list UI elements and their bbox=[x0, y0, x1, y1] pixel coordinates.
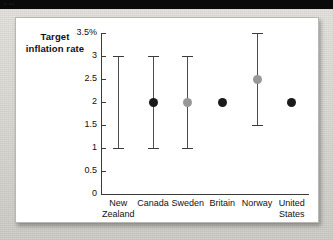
top-band-faint-marks: ▫ ▫▫ bbox=[4, 1, 15, 7]
x-axis-label-line1: Norway bbox=[238, 198, 277, 209]
x-axis-label-line2: Zealand bbox=[99, 209, 138, 220]
y-tick-label-text: 0 bbox=[92, 188, 97, 198]
y-tick-mark bbox=[101, 102, 106, 103]
plot-area: Target inflation rate 3.5%32.521.510.50 … bbox=[16, 18, 318, 222]
range-cap-low bbox=[252, 125, 263, 127]
x-axis-label: NewZealand bbox=[99, 198, 138, 219]
x-axis-label: Norway bbox=[238, 198, 277, 209]
y-tick-label-text: 3 bbox=[92, 50, 97, 60]
x-axis-label: Canada bbox=[134, 198, 173, 209]
x-axis-label-line1: Britain bbox=[203, 198, 242, 209]
range-cap-low bbox=[113, 148, 124, 150]
range-bar bbox=[118, 56, 119, 148]
range-cap-high bbox=[252, 33, 263, 35]
y-tick-mark bbox=[101, 56, 106, 57]
x-axis-line bbox=[101, 194, 309, 195]
screenshot-root: ▫ ▫▫ Target inflation rate 3.5%32.521.51… bbox=[0, 0, 333, 240]
range-cap-high bbox=[148, 56, 159, 58]
x-axis-label-line1: Sweden bbox=[168, 198, 207, 209]
y-tick-mark bbox=[101, 148, 106, 149]
target-marker-dot bbox=[183, 98, 192, 107]
y-tick-label-text: 1.5 bbox=[84, 119, 97, 129]
y-tick-mark bbox=[101, 194, 106, 195]
top-black-band: ▫ ▫▫ bbox=[0, 0, 333, 9]
range-cap-high bbox=[113, 56, 124, 58]
y-tick-label-text: 0.5 bbox=[84, 165, 97, 175]
x-axis-label: Britain bbox=[203, 198, 242, 209]
range-cap-high bbox=[182, 56, 193, 58]
target-marker-dot bbox=[253, 75, 262, 84]
range-cap-low bbox=[182, 148, 193, 150]
y-tick-label-text: 2.5 bbox=[84, 73, 97, 83]
target-marker-dot bbox=[149, 98, 158, 107]
y-tick-mark bbox=[101, 33, 106, 34]
y-tick-label-text: 2 bbox=[92, 96, 97, 106]
range-cap-low bbox=[148, 148, 159, 150]
x-axis-label-line1: New bbox=[99, 198, 138, 209]
x-axis-label-line1: United bbox=[272, 198, 311, 209]
chart-panel: Target inflation rate 3.5%32.521.510.50 … bbox=[15, 17, 319, 223]
y-tick-mark bbox=[101, 171, 106, 172]
y-tick-mark bbox=[101, 125, 106, 126]
x-axis-label: UnitedStates bbox=[272, 198, 311, 219]
y-tick-mark bbox=[101, 79, 106, 80]
x-axis-label-line1: Canada bbox=[134, 198, 173, 209]
target-marker-dot bbox=[287, 98, 296, 107]
x-axis-label: Sweden bbox=[168, 198, 207, 209]
y-tick-label-text: 3.5% bbox=[76, 27, 97, 37]
y-tick-label-text: 1 bbox=[92, 142, 97, 152]
target-marker-dot bbox=[218, 98, 227, 107]
x-axis-label-line2: States bbox=[272, 209, 311, 220]
